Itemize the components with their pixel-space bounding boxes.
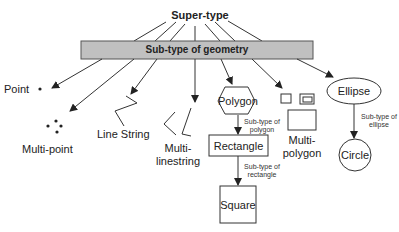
ellipse-edge-label-1: Sub-type of xyxy=(357,113,399,121)
rectangle-label: Rectangle xyxy=(209,140,268,152)
multipolygon-glyph xyxy=(281,94,316,130)
multilinestring-label-2: linestring xyxy=(155,155,201,167)
supertype-label: Super-type xyxy=(165,9,235,21)
linestring-glyph xyxy=(115,96,137,126)
multipoint-glyph xyxy=(46,119,62,133)
rectangle-edge-label-2: rectangle xyxy=(240,171,284,179)
linestring-label: Line String xyxy=(97,128,150,140)
polygon-edge-label-2: polygon xyxy=(240,126,284,134)
square-label: Square xyxy=(220,199,256,211)
circle-label: Circle xyxy=(339,149,371,161)
polygon-label: Polygon xyxy=(218,95,255,107)
multipolygon-label-2: polygon xyxy=(282,147,322,159)
multilinestring-label-1: Multi- xyxy=(158,142,198,154)
multilinestring-glyph xyxy=(164,108,191,136)
multipolygon-label-1: Multi- xyxy=(282,134,322,146)
ellipse-label: Ellipse xyxy=(327,85,381,97)
multipoint-label: Multi-point xyxy=(22,143,73,155)
rectangle-edge-label-1: Sub-type of xyxy=(240,163,284,171)
subtype-bar-label: Sub-type of geometry xyxy=(81,44,313,56)
diagram-canvas xyxy=(0,0,399,232)
point-label: Point xyxy=(4,83,29,95)
supertype-connectors xyxy=(134,21,262,41)
ellipse-edge-label-2: ellipse xyxy=(357,121,399,129)
polygon-edge-label-1: Sub-type of xyxy=(240,118,284,126)
point-glyph xyxy=(38,87,41,90)
